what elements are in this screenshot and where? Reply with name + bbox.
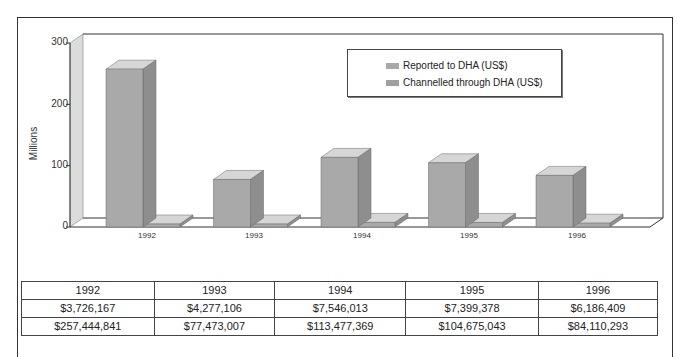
bar-channelled-1992-front [143,224,180,227]
table-header-row: 1992 1993 1994 1995 1996 [22,282,658,300]
table-cell: 1994 [275,282,406,300]
bar-reported-1994-side [358,148,371,227]
table-cell: $7,399,378 [406,300,539,318]
table-cell: $104,675,043 [406,318,539,336]
data-table: 1992 1993 1994 1995 1996 $3,726,167 $4,2… [21,281,658,336]
table-cell: $84,110,293 [538,318,657,336]
legend-item-reported: Reported to DHA (US$) [386,60,508,71]
bar-reported-1992-front [106,69,143,227]
legend-label-channelled: Channelled through DHA (US$) [403,77,543,88]
table-cell: 1995 [406,282,539,300]
y-tick-100: 100 [38,159,68,170]
x-tick-1994: 1994 [342,231,382,240]
bar-reported-1994-front [321,157,358,227]
table-cell: $113,477,369 [275,318,406,336]
bar-channelled-1996-front [573,223,610,227]
legend-swatch-reported [386,63,399,69]
y-tick-200: 200 [38,98,68,109]
table-cell: $6,186,409 [538,300,657,318]
bar-channelled-1993-front [251,224,288,227]
table-cell: 1992 [22,282,155,300]
bar-reported-1996-side [573,166,586,227]
legend-swatch-channelled [386,80,399,86]
bar-reported-1995-front [429,163,466,227]
table-row: $3,726,167 $4,277,106 $7,546,013 $7,399,… [22,300,658,318]
x-tick-1993: 1993 [234,231,274,240]
bar-reported-1993-side [251,170,264,227]
left-wall [70,34,83,227]
bar-reported-1996-front [536,175,573,227]
y-tick-0: 0 [38,220,68,231]
x-tick-1995: 1995 [449,231,489,240]
x-tick-1996: 1996 [557,231,597,240]
table-cell: 1996 [538,282,657,300]
y-tick-300: 300 [38,36,68,47]
bar-reported-1992-side [143,60,156,227]
legend-item-channelled: Channelled through DHA (US$) [386,77,543,88]
legend-label-reported: Reported to DHA (US$) [403,60,508,71]
table-cell: $77,473,007 [154,318,275,336]
x-tick-1992: 1992 [127,231,167,240]
table-cell: $257,444,841 [22,318,155,336]
table-cell: $4,277,106 [154,300,275,318]
bar-reported-1993-front [214,179,251,227]
chart-legend: Reported to DHA (US$) Channelled through… [347,49,562,97]
table-cell: $7,546,013 [275,300,406,318]
y-axis-label: Millions [28,119,39,169]
table-cell: $3,726,167 [22,300,155,318]
bar-reported-1995-side [466,154,479,227]
table-row: $257,444,841 $77,473,007 $113,477,369 $1… [22,318,658,336]
table-cell: 1993 [154,282,275,300]
